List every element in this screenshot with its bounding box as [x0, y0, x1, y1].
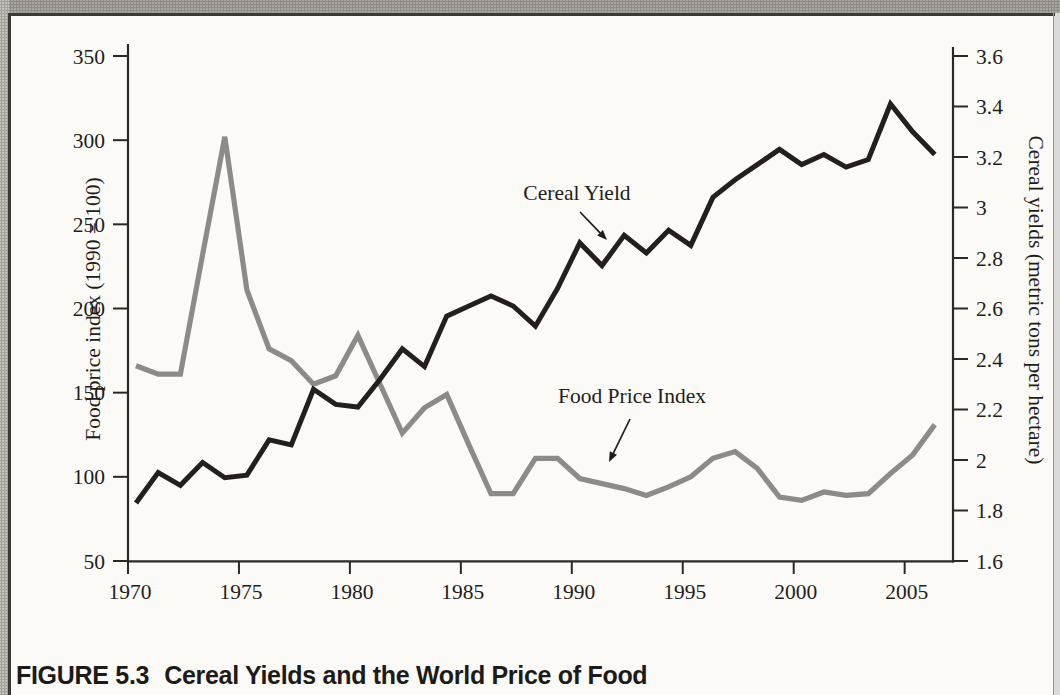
y-axis-right-tick-label: 3.6: [976, 45, 1003, 69]
x-axis-tick-label: 2000: [774, 580, 817, 604]
x-axis-tick-label: 1980: [330, 580, 373, 604]
y-axis-right-tick-label: 2.6: [976, 297, 1003, 321]
y-axis-right-tick-label: 3.2: [976, 146, 1003, 170]
series-line-cereal-yield: [136, 104, 935, 503]
y-axis-right-tick-label: 2.2: [976, 398, 1003, 422]
x-axis-tick-label: 1970: [109, 580, 152, 604]
figure-caption-number: FIGURE 5.3: [16, 661, 149, 689]
y-axis-right-tick-label: 2.8: [976, 247, 1003, 271]
y-axis-right-tick-label: 3: [976, 196, 987, 220]
y-axis-left-tick-label: 50: [84, 550, 106, 574]
y-axis-left-tick-label: 300: [73, 129, 105, 153]
y-axis-right-tick-label: 2: [976, 449, 987, 473]
dual-axis-line-chart: 350300250200150100503.63.43.232.82.62.42…: [0, 0, 1060, 695]
x-axis-tick-label: 1990: [552, 580, 595, 604]
figure-caption: FIGURE 5.3Cereal Yields and the World Pr…: [16, 661, 647, 690]
x-axis-tick-label: 2005: [885, 580, 928, 604]
y-axis-left-title: Food price index (1990 = 100): [81, 177, 105, 441]
x-axis-tick-label: 1995: [663, 580, 706, 604]
y-axis-left-tick-label: 100: [73, 465, 105, 489]
x-axis-tick-label: 1985: [441, 580, 484, 604]
annotation-label-cereal-yield: Cereal Yield: [523, 181, 631, 205]
annotation-arrow-line: [613, 419, 630, 453]
y-axis-right-tick-label: 3.4: [976, 95, 1003, 119]
figure-caption-title: Cereal Yields and the World Price of Foo…: [164, 661, 647, 689]
annotation-arrow-line: [580, 212, 600, 233]
y-axis-left-tick-label: 350: [73, 45, 105, 69]
annotation-label-food-price-index: Food Price Index: [558, 384, 706, 408]
x-axis-tick-label: 1975: [219, 580, 262, 604]
annotation-arrowhead: [609, 451, 617, 462]
y-axis-right-tick-label: 2.4: [976, 348, 1003, 372]
y-axis-right-tick-label: 1.6: [976, 550, 1003, 574]
y-axis-right-tick-label: 1.8: [976, 499, 1003, 523]
book-page-scan: { "figure": { "caption_label": "FIGURE 5…: [0, 0, 1060, 695]
y-axis-right-title: Cereal yields (metric tons per hectare): [1024, 136, 1048, 465]
